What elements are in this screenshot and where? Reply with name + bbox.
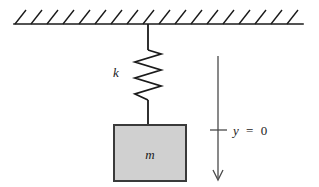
hatch-mark bbox=[79, 10, 90, 24]
hatch-mark bbox=[175, 10, 186, 24]
hatch-mark bbox=[143, 10, 154, 24]
hatch-mark bbox=[95, 10, 106, 24]
hatch-mark bbox=[223, 10, 234, 24]
hatch-mark bbox=[207, 10, 218, 24]
hatch-mark bbox=[31, 10, 42, 24]
hatch-mark bbox=[255, 10, 266, 24]
diagram-canvas: k m y = 0 bbox=[0, 0, 319, 187]
hatch-mark bbox=[111, 10, 122, 24]
hatch-mark bbox=[127, 10, 138, 24]
y-origin-variable: y bbox=[231, 123, 239, 138]
y-axis-arrow bbox=[210, 56, 227, 180]
hatch-mark bbox=[63, 10, 74, 24]
hatch-mark bbox=[239, 10, 250, 24]
hatch-mark bbox=[271, 10, 282, 24]
ceiling-hatching bbox=[15, 10, 298, 24]
spring-coil bbox=[135, 50, 161, 100]
spring-mass-diagram: k m y = 0 bbox=[0, 0, 319, 187]
y-origin-operator: = bbox=[246, 123, 253, 138]
hatch-mark bbox=[47, 10, 58, 24]
hatch-mark bbox=[287, 10, 298, 24]
ceiling-support bbox=[14, 10, 303, 24]
y-origin-value: 0 bbox=[261, 123, 268, 138]
hatch-mark bbox=[191, 10, 202, 24]
spring-constant-label: k bbox=[113, 65, 119, 80]
hatch-mark bbox=[15, 10, 26, 24]
mass-label: m bbox=[145, 147, 154, 162]
y-origin-label: y = 0 bbox=[231, 123, 267, 138]
hatch-mark bbox=[159, 10, 170, 24]
